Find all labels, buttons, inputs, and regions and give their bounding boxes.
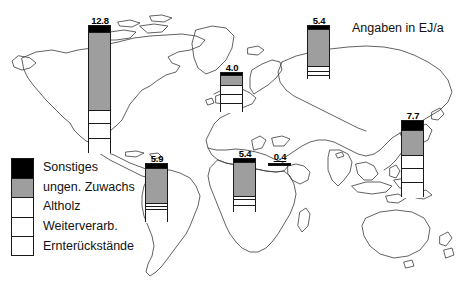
legend-swatch-ernterueckstaende [11,236,34,256]
bar-segment-ungen-zuwachs [89,32,110,110]
bar-segment-ernterueckstaende [308,75,329,80]
legend-swatch-weiterverarb [11,217,34,237]
bar-segment-ungen-zuwachs [308,29,329,66]
bar-label-west-asia: 0.4 [266,152,294,162]
legend-label-ernterueckstaende: Ernterückstände [43,240,134,253]
legend-swatch-ungen-zuwachs [11,178,34,198]
bar-segment-ernterueckstaende [89,138,110,154]
legend-label-sonstiges: Sonstiges [43,161,98,174]
bar-segment-ungen-zuwachs [146,168,167,203]
bar-south-america[interactable] [145,163,168,222]
bar-europe[interactable] [220,72,243,112]
legend-item-weiterverarb[interactable]: Weiterverarb. [11,217,135,237]
bar-segment-ernterueckstaende [402,182,423,198]
bar-segment-ernterueckstaende [234,205,255,213]
bar-segment-altholz [89,110,110,123]
bar-segment-altholz [402,155,423,168]
bar-segment-sonstiges [268,163,291,166]
bar-segment-ungen-zuwachs [234,162,255,196]
bar-oceania[interactable] [401,120,424,197]
bar-segment-ungen-zuwachs [402,130,423,155]
bar-west-asia[interactable] [268,163,291,167]
unit-note: Angaben in EJ/a [352,21,444,35]
bar-north-america[interactable] [88,25,111,153]
legend-swatch-sonstiges [11,158,34,178]
bar-segment-weiterverarb [402,168,423,182]
bar-africa[interactable] [233,158,256,212]
figure-canvas: 12.8 5.9 4.0 5.4 0.4 5.4 [0,0,465,287]
bar-segment-ernterueckstaende [221,103,242,113]
legend: Sonstiges ungen. Zuwachs Altholz Weiterv… [11,158,135,256]
legend-item-altholz[interactable]: Altholz [11,197,135,217]
bar-segment-sonstiges [402,121,423,130]
bar-segment-ungen-zuwachs [221,75,242,85]
legend-item-sonstiges[interactable]: Sonstiges [11,158,135,178]
legend-label-altholz: Altholz [43,200,81,213]
legend-item-ungen-zuwachs[interactable]: ungen. Zuwachs [11,178,135,198]
bar-segment-weiterverarb [89,123,110,138]
bar-asia[interactable] [307,25,330,79]
legend-label-weiterverarb: Weiterverarb. [43,220,118,233]
legend-label-ungen-zuwachs: ungen. Zuwachs [43,181,135,194]
bar-segment-weiterverarb [221,94,242,103]
legend-item-ernterueckstaende[interactable]: Ernterückstände [11,236,135,256]
bar-segment-altholz [221,85,242,94]
bar-segment-ernterueckstaende [146,209,167,223]
legend-swatch-altholz [11,197,34,217]
